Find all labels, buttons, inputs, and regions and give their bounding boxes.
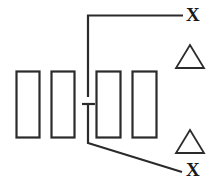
label-x-bottom: X (186, 160, 200, 179)
rectangle-3 (97, 72, 121, 138)
triangle-lower (176, 130, 204, 153)
figure-canvas: X X (0, 0, 216, 187)
top-leader-line (88, 16, 183, 98)
triangle-upper (176, 45, 204, 68)
rectangle-4 (133, 72, 157, 138)
diagram-svg (0, 0, 216, 187)
rectangle-1 (17, 72, 40, 138)
label-x-top: X (186, 5, 200, 24)
rectangle-2 (52, 72, 75, 138)
